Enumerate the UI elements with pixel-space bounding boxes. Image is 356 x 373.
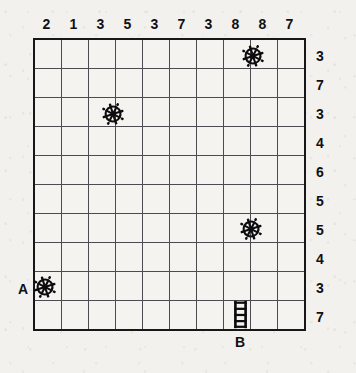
point-label-b: B [235, 334, 245, 350]
ships-wheel-icon[interactable] [100, 101, 126, 127]
column-clue-9: 8 [249, 16, 276, 32]
column-clue-1: 2 [33, 16, 60, 32]
row-clue-5: 6 [316, 164, 336, 180]
ships-wheel-icon[interactable] [32, 274, 58, 300]
column-clue-5: 3 [141, 16, 168, 32]
column-clue-3: 3 [87, 16, 114, 32]
row-clue-8: 4 [316, 251, 336, 267]
row-clue-9: 3 [316, 280, 336, 296]
point-label-a: A [18, 281, 28, 297]
row-clue-10: 7 [316, 309, 336, 325]
ladder-icon[interactable] [232, 299, 249, 330]
grid-lines [35, 40, 304, 329]
column-clue-6: 7 [168, 16, 195, 32]
column-clue-2: 1 [60, 16, 87, 32]
row-clue-1: 3 [316, 48, 336, 64]
column-clue-7: 3 [195, 16, 222, 32]
column-clue-8: 8 [222, 16, 249, 32]
ships-wheel-icon[interactable] [238, 216, 264, 242]
row-clue-2: 7 [316, 77, 336, 93]
row-clue-7: 5 [316, 222, 336, 238]
column-clue-4: 5 [114, 16, 141, 32]
row-clue-3: 3 [316, 106, 336, 122]
row-clue-4: 4 [316, 135, 336, 151]
puzzle-board: 2 1 3 5 3 7 3 8 8 7 3 7 3 4 6 5 5 4 3 7 [0, 0, 356, 373]
row-clue-6: 5 [316, 193, 336, 209]
puzzle-grid[interactable] [33, 38, 306, 331]
ships-wheel-icon[interactable] [240, 43, 266, 69]
column-clue-10: 7 [276, 16, 303, 32]
